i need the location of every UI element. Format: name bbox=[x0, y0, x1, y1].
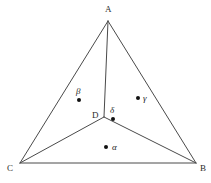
region-label-delta: δ bbox=[110, 106, 114, 115]
vertex-label-c: C bbox=[7, 164, 13, 173]
vertex-label-d: D bbox=[92, 111, 99, 120]
region-label-gamma: γ bbox=[143, 94, 147, 103]
cevian-DA bbox=[104, 21, 108, 117]
side-CA bbox=[20, 21, 108, 163]
region-dot-group bbox=[77, 96, 140, 149]
region-dot-beta bbox=[77, 98, 81, 102]
triangle-diagram: ABCD αβγδ bbox=[0, 0, 211, 183]
vertex-label-b: B bbox=[200, 164, 206, 173]
region-dot-gamma bbox=[136, 96, 140, 100]
cevian-DC bbox=[20, 117, 104, 163]
region-dot-delta bbox=[111, 117, 115, 121]
region-dot-alpha bbox=[104, 145, 108, 149]
region-label-alpha: α bbox=[112, 143, 117, 152]
diagram-canvas bbox=[0, 0, 211, 183]
vertex-label-a: A bbox=[105, 5, 112, 14]
region-label-beta: β bbox=[76, 87, 80, 96]
edge-group bbox=[20, 21, 196, 163]
side-AB bbox=[108, 21, 196, 163]
